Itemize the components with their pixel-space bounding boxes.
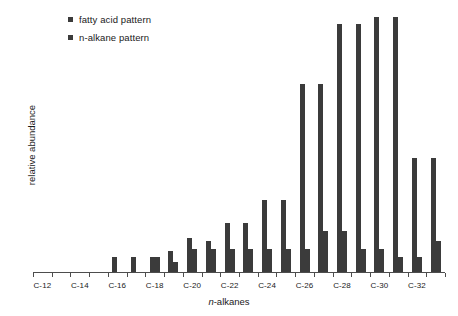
x-axis-tick-label: C-20 (183, 281, 201, 290)
chart-figure: fatty acid pattern n-alkane pattern rela… (0, 0, 458, 316)
bar-c-20-series-1 (192, 249, 197, 272)
bar-c-33-series-1 (436, 241, 441, 272)
bar-c-30-series-1 (379, 249, 384, 272)
bar-c-29-series-1 (361, 249, 366, 272)
x-axis-tick-label: C-16 (108, 281, 126, 290)
bar-c-31-series-0 (393, 17, 398, 272)
bar-c-16-series-0 (112, 257, 117, 272)
x-axis-tick (127, 273, 128, 277)
x-axis-tick (445, 273, 446, 277)
plot-area (33, 14, 445, 272)
x-axis-tick-label: C-30 (371, 281, 389, 290)
x-axis-tick-label: C-28 (333, 281, 351, 290)
x-axis-tick (351, 273, 352, 277)
x-axis-tick-label: C-26 (296, 281, 314, 290)
bar-c-32-series-1 (417, 257, 422, 272)
x-axis-tick (33, 273, 34, 277)
x-axis-tick (389, 273, 390, 277)
bar-c-23-series-1 (248, 249, 253, 272)
x-axis-tick-label: C-32 (408, 281, 426, 290)
x-axis-tick-label: C-18 (146, 281, 164, 290)
x-axis-tick (202, 273, 203, 277)
x-axis-tick (108, 273, 109, 277)
x-axis-tick (239, 273, 240, 277)
x-axis-tick-label: C-12 (33, 281, 51, 290)
x-axis-title-rest: -alkanes (214, 296, 250, 307)
x-axis-tick (145, 273, 146, 277)
x-axis-tick (295, 273, 296, 277)
x-axis-tick (333, 273, 334, 277)
x-axis-tick (52, 273, 53, 277)
x-axis-tick-label: C-14 (71, 281, 89, 290)
bar-c-30-series-0 (374, 17, 379, 272)
bar-c-26-series-1 (305, 249, 310, 272)
x-axis-tick-label: C-22 (221, 281, 239, 290)
bar-c-24-series-1 (267, 249, 272, 272)
x-axis-tick (314, 273, 315, 277)
x-axis-tick (183, 273, 184, 277)
bar-c-22-series-1 (230, 249, 235, 272)
bar-c-31-series-1 (398, 257, 403, 272)
bar-c-29-series-0 (356, 24, 361, 272)
x-axis-tick-label: C-24 (258, 281, 276, 290)
x-axis-tick (426, 273, 427, 277)
x-axis-title: n-alkanes (0, 296, 458, 307)
bar-c-25-series-1 (286, 249, 291, 272)
x-axis-tick (89, 273, 90, 277)
bar-c-28-series-1 (342, 231, 347, 272)
bar-c-26-series-0 (300, 84, 305, 272)
x-axis-tick (370, 273, 371, 277)
bar-c-21-series-1 (211, 249, 216, 272)
bar-c-32-series-0 (412, 158, 417, 272)
x-axis-tick (164, 273, 165, 277)
bar-c-18-series-1 (155, 257, 160, 272)
x-axis-tick (276, 273, 277, 277)
bar-c-27-series-1 (323, 231, 328, 272)
x-axis-tick (220, 273, 221, 277)
bar-c-19-series-1 (173, 262, 178, 272)
bar-c-17-series-0 (131, 257, 136, 272)
x-axis-tick (258, 273, 259, 277)
x-axis-tick (408, 273, 409, 277)
x-axis-tick (70, 273, 71, 277)
